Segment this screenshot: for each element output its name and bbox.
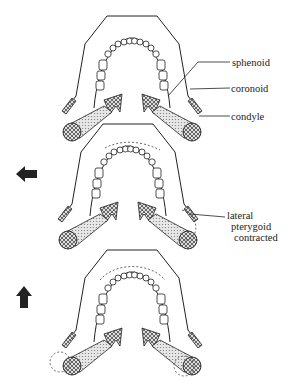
mandible-movement-diagram: sphenoid coronoid condyle lateral pteryg… [0, 0, 301, 384]
label-condyle: condyle [231, 111, 264, 122]
panel-rest [62, 16, 230, 141]
panel-lateral-shift [16, 124, 225, 249]
label-coronoid: coronoid [231, 83, 268, 94]
label-contracted: contracted [234, 232, 278, 243]
left-arrow-icon [16, 166, 37, 182]
panel-protrusion [16, 250, 202, 376]
label-lateral: lateral [227, 210, 253, 221]
label-pterygoid: pterygoid [231, 221, 271, 232]
label-sphenoid: sphenoid [232, 57, 270, 68]
up-arrow-icon [16, 286, 32, 308]
